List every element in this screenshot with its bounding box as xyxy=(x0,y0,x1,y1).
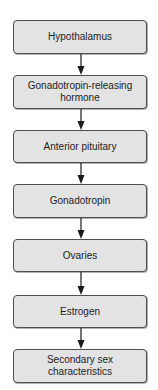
node-anterior-pituitary: Anterior pituitary xyxy=(13,130,147,163)
node-label-line-2: hormone xyxy=(28,92,133,104)
node-label: Estrogen xyxy=(60,306,100,318)
node-label-line-1: Secondary sex xyxy=(47,354,113,366)
node-label: Hypothalamus xyxy=(48,31,112,43)
node-gonadotropin: Gonadotropin xyxy=(13,184,147,218)
node-label: Anterior pituitary xyxy=(44,141,117,153)
node-secondary-sex-characteristics: Secondary sex characteristics xyxy=(13,349,147,383)
node-ovaries: Ovaries xyxy=(13,239,147,272)
arrow-down-icon xyxy=(77,218,85,239)
node-estrogen: Estrogen xyxy=(13,295,147,328)
arrow-down-icon xyxy=(77,54,85,75)
arrow-down-icon xyxy=(77,109,85,130)
node-label-line-2: characteristics xyxy=(47,366,113,378)
node-label: Gonadotropin xyxy=(50,195,111,207)
node-hypothalamus: Hypothalamus xyxy=(13,20,147,54)
node-label: Ovaries xyxy=(63,250,97,262)
node-label-line-1: Gonadotropin-releasing xyxy=(28,80,133,92)
hormone-flowchart: Hypothalamus Gonadotropin-releasing horm… xyxy=(0,0,158,390)
arrow-down-icon xyxy=(77,272,85,295)
arrow-down-icon xyxy=(77,163,85,184)
arrow-down-icon xyxy=(77,328,85,349)
node-gonadotropin-releasing-hormone: Gonadotropin-releasing hormone xyxy=(13,75,147,109)
